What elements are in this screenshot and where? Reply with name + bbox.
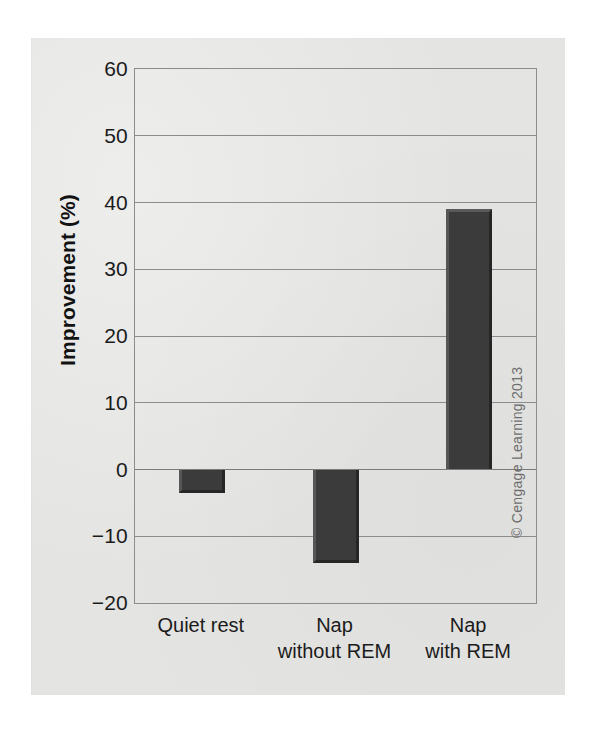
x-axis-tick-labels: Quiet restNap without REMNap with REM (134, 613, 537, 693)
bar (313, 470, 359, 563)
x-tick-label: Nap without REM (268, 613, 402, 664)
bar (446, 209, 492, 469)
x-tick-label: Nap with REM (401, 613, 535, 664)
y-tick-label: −10 (64, 525, 128, 546)
y-tick-label: 10 (64, 392, 128, 413)
y-tick-label: 50 (64, 125, 128, 146)
gridline (135, 202, 536, 203)
y-tick-label: 0 (64, 459, 128, 480)
x-tick-label: Quiet rest (134, 613, 268, 639)
gridline (135, 135, 536, 136)
y-tick-label: 40 (64, 192, 128, 213)
figure-panel: Improvement (%) 6050403020100−10−20 Quie… (31, 38, 565, 695)
copyright-credit: © Cengage Learning 2013 (509, 318, 525, 538)
plot-area (134, 68, 537, 604)
y-tick-label: 30 (64, 258, 128, 279)
y-tick-label: 20 (64, 325, 128, 346)
bar (179, 470, 225, 493)
y-tick-label: 60 (64, 58, 128, 79)
y-axis-tick-labels: 6050403020100−10−20 (53, 68, 128, 604)
y-tick-label: −20 (64, 592, 128, 613)
